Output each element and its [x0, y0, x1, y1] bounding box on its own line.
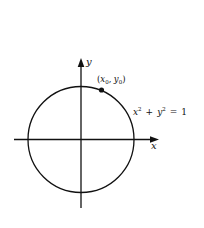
circle-equation: x2+y2=1: [133, 106, 187, 117]
unit-circle-diagram: y x (x0,y0) x2+y2=1: [0, 0, 204, 228]
point-label-close: ): [122, 74, 125, 84]
point-label-comma: ,: [109, 74, 112, 84]
y-axis-arrowhead-icon: [78, 58, 85, 67]
x-axis-label: x: [151, 140, 157, 151]
equation-rhs: 1: [181, 107, 187, 117]
y-axis-label: y: [85, 56, 92, 67]
equation-plus: +: [146, 107, 154, 117]
point-label: (x0,y0): [97, 74, 125, 85]
point-x0-y0: [99, 87, 104, 92]
equation-x-exp: 2: [138, 106, 142, 112]
equation-y-exp: 2: [162, 106, 166, 112]
equation-equals: =: [170, 107, 178, 117]
